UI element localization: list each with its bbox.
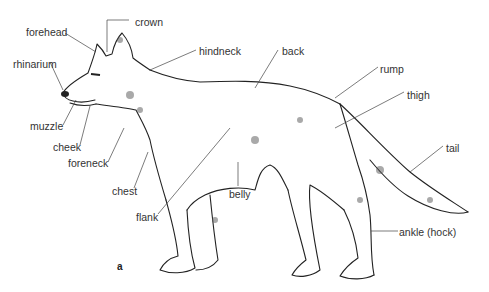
label-foreneck: foreneck [68, 157, 108, 169]
label-rhinarium: rhinarium [13, 58, 57, 70]
label-thigh: thigh [407, 89, 430, 101]
label-forehead: forehead [26, 26, 67, 38]
nose-icon [61, 91, 69, 97]
label-muzzle: muzzle [30, 120, 63, 132]
label-crown: crown [135, 16, 163, 28]
figure-label: a [117, 261, 123, 272]
label-belly: belly [229, 188, 251, 200]
label-flank: flank [136, 211, 158, 223]
label-rump: rump [380, 63, 404, 75]
label-back: back [282, 45, 304, 57]
label-ankle-hock: ankle (hock) [399, 226, 456, 238]
label-chest: chest [112, 185, 137, 197]
label-cheek: cheek [53, 141, 81, 153]
label-hindneck: hindneck [199, 45, 241, 57]
label-tail: tail [446, 142, 459, 154]
